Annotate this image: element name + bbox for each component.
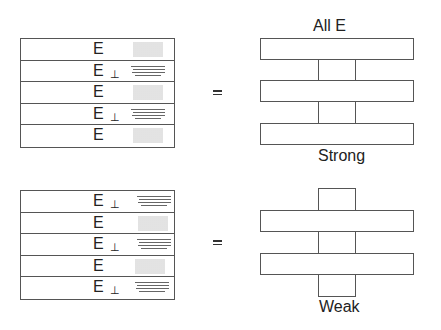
layer-row: E ⊥ — [21, 191, 174, 213]
layer-label: E — [93, 83, 104, 101]
strong-caption: Strong — [318, 147, 365, 165]
bottom-layer-stack: E ⊥ E E ⊥ E E ⊥ — [20, 190, 175, 300]
layer-row: E ⊥ — [21, 104, 174, 126]
layer-label: E — [93, 126, 104, 144]
layer-label: E — [93, 278, 104, 296]
perp-symbol: ⊥ — [110, 198, 120, 211]
layer-row: E ⊥ — [21, 234, 174, 256]
layer-label: E — [93, 105, 104, 123]
layer-label: E — [93, 214, 104, 232]
layer-row: E — [21, 256, 174, 278]
connector — [318, 59, 356, 81]
layer-row: E ⊥ — [21, 61, 174, 83]
bar — [260, 210, 414, 232]
stipple-pattern-icon — [133, 128, 163, 143]
equals-sign-icon — [213, 240, 222, 247]
bar — [260, 38, 414, 60]
connector — [318, 274, 356, 297]
layer-row: E ⊥ — [21, 277, 174, 299]
connector — [318, 101, 356, 124]
stripes-pattern-icon — [137, 196, 171, 208]
perp-symbol: ⊥ — [110, 68, 120, 81]
bar — [260, 123, 414, 145]
stipple-pattern-icon — [133, 42, 163, 57]
connector — [318, 188, 356, 211]
layer-label: E — [93, 40, 104, 58]
perp-symbol: ⊥ — [110, 111, 120, 124]
stipple-pattern-icon — [133, 85, 163, 100]
bar — [260, 253, 414, 275]
layer-label: E — [93, 257, 104, 275]
layer-row: E — [21, 39, 174, 61]
stripes-pattern-icon — [135, 282, 169, 294]
perp-symbol: ⊥ — [110, 241, 120, 254]
layer-row: E — [21, 213, 174, 235]
stripes-pattern-icon — [137, 239, 171, 251]
connector — [318, 231, 356, 254]
stipple-pattern-icon — [135, 259, 165, 274]
layer-label: E — [93, 235, 104, 253]
weak-caption: Weak — [319, 298, 360, 316]
layer-row: E — [21, 125, 174, 147]
stripes-pattern-icon — [131, 109, 165, 121]
layer-label: E — [93, 62, 104, 80]
stripes-pattern-icon — [131, 66, 165, 78]
perp-symbol: ⊥ — [110, 284, 120, 297]
layer-row: E — [21, 82, 174, 104]
bar — [260, 80, 414, 102]
stipple-pattern-icon — [138, 216, 168, 231]
top-layer-stack: E E ⊥ E E ⊥ E — [20, 38, 175, 148]
all-e-title: All E — [313, 17, 346, 35]
equals-sign-icon — [213, 90, 222, 97]
layer-label: E — [93, 192, 104, 210]
